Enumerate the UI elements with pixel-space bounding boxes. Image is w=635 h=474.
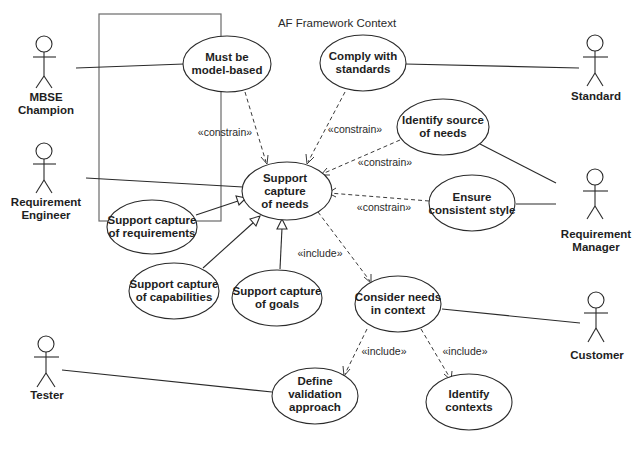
arrowhead-icon	[261, 155, 268, 164]
gen-reqs-needs	[196, 201, 238, 215]
svg-text:Manager: Manager	[572, 241, 620, 253]
arrowhead-icon	[364, 274, 371, 283]
svg-text:standards: standards	[336, 63, 391, 75]
stick-figure-icon	[34, 336, 59, 387]
svg-text:of requirements: of requirements	[109, 227, 196, 239]
svg-text:consistent style: consistent style	[429, 204, 516, 216]
svg-text:Requirement: Requirement	[11, 196, 81, 208]
svg-text:Identify source: Identify source	[402, 114, 484, 126]
svg-text:Must be: Must be	[205, 51, 248, 63]
actor-tester[interactable]: Tester	[30, 336, 64, 401]
stereo-constrain-model: «constrain»	[198, 126, 252, 138]
svg-text:approach: approach	[289, 401, 341, 413]
assoc-standard-comply	[405, 64, 579, 68]
assoc-reqmgr-source	[480, 144, 556, 183]
use-case-identify-contexts[interactable]: Identify contexts	[426, 374, 512, 430]
actor-customer[interactable]: Customer	[570, 292, 624, 361]
svg-text:Support capture: Support capture	[130, 278, 219, 290]
gen-caps-needs	[203, 222, 254, 268]
actor-mbse-champion[interactable]: MBSE Champion	[18, 36, 74, 116]
svg-text:of needs: of needs	[419, 127, 466, 139]
boundary-title: AF Framework Context	[278, 17, 397, 29]
assoc-reqeng-needs	[86, 178, 243, 187]
svg-text:Engineer: Engineer	[21, 209, 71, 221]
use-case-comply-standards[interactable]: Comply with standards	[320, 35, 406, 91]
svg-text:Tester: Tester	[30, 389, 64, 401]
use-case-capture-requirements[interactable]: Support capture of requirements	[107, 200, 197, 254]
assoc-mbse-model	[76, 64, 184, 68]
svg-text:of capabilities: of capabilities	[136, 291, 213, 303]
stick-figure-icon	[583, 35, 608, 86]
use-case-consider-needs-context[interactable]: Consider needs in context	[355, 276, 441, 332]
svg-text:MBSE: MBSE	[29, 91, 63, 103]
stereo-include-contexts: «include»	[443, 345, 488, 357]
svg-text:Ensure: Ensure	[453, 191, 492, 203]
svg-text:Support capture: Support capture	[108, 214, 197, 226]
use-case-capture-capabilities[interactable]: Support capture of capabilities	[129, 263, 219, 319]
svg-text:Comply with: Comply with	[329, 50, 397, 62]
assoc-tester-validation	[62, 370, 272, 392]
svg-text:Support: Support	[263, 172, 307, 184]
dep-style-needs	[329, 193, 429, 201]
use-case-diagram: AF Framework Context «constrain» «constr…	[0, 0, 635, 474]
use-case-model-based[interactable]: Must be model-based	[183, 36, 271, 92]
stereo-include-validation: «include»	[362, 345, 407, 357]
svg-text:Define: Define	[297, 375, 332, 387]
stereo-constrain-style: «constrain»	[357, 201, 411, 213]
svg-text:Requirement: Requirement	[561, 228, 631, 240]
use-case-capture-goals[interactable]: Support capture of goals	[232, 270, 322, 326]
stick-figure-icon	[33, 143, 56, 193]
arrowhead-icon	[306, 154, 314, 164]
stereo-constrain-comply: «constrain»	[328, 123, 382, 135]
svg-text:Identify: Identify	[449, 388, 490, 400]
svg-text:capture: capture	[264, 185, 306, 197]
svg-text:validation: validation	[288, 388, 342, 400]
assoc-customer-context	[442, 309, 580, 323]
svg-text:Champion: Champion	[18, 104, 74, 116]
arrowhead-icon	[343, 366, 350, 376]
svg-text:Consider needs: Consider needs	[355, 291, 441, 303]
stereo-include-needs: «include»	[298, 247, 343, 259]
stereo-constrain-source: «constrain»	[358, 156, 412, 168]
use-case-support-capture-needs[interactable]: Support capture of needs	[242, 162, 332, 220]
svg-text:contexts: contexts	[445, 401, 492, 413]
stick-figure-icon	[583, 169, 608, 219]
stick-figure-icon	[584, 292, 608, 342]
actor-requirement-manager[interactable]: Requirement Manager	[561, 169, 631, 253]
svg-text:in context: in context	[371, 304, 425, 316]
stick-figure-icon	[33, 36, 56, 88]
svg-text:Standard: Standard	[571, 90, 621, 102]
svg-text:model-based: model-based	[192, 64, 263, 76]
svg-text:Support capture: Support capture	[233, 285, 322, 297]
use-case-consistent-style[interactable]: Ensure consistent style	[429, 175, 516, 231]
use-case-identify-source[interactable]: Identify source of needs	[397, 99, 489, 155]
gen-goals-needs	[280, 228, 282, 269]
actor-requirement-engineer[interactable]: Requirement Engineer	[11, 143, 81, 221]
svg-text:of needs: of needs	[261, 198, 308, 210]
svg-text:of goals: of goals	[255, 298, 299, 310]
use-case-define-validation[interactable]: Define validation approach	[272, 368, 358, 424]
svg-text:Customer: Customer	[570, 349, 624, 361]
